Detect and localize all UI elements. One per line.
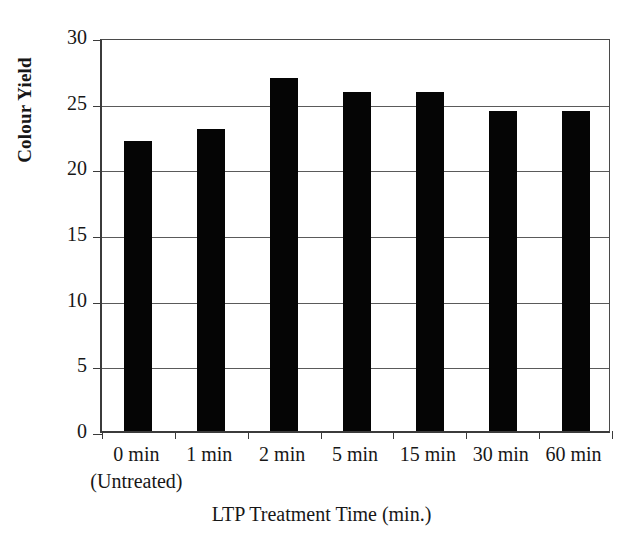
bar (270, 78, 298, 431)
y-axis-tick-label: 0 (42, 420, 87, 443)
bar (124, 141, 152, 431)
x-axis-tick (248, 431, 249, 439)
y-axis-tick (93, 40, 102, 41)
bar (489, 111, 517, 431)
y-axis-tick (93, 171, 102, 172)
x-axis-tick (393, 431, 394, 439)
y-axis-tick (93, 303, 102, 304)
plot-area (100, 39, 610, 433)
x-axis-tick-sublabel: (Untreated) (71, 470, 201, 493)
y-axis-tick (93, 106, 102, 107)
y-axis-tick-label: 5 (42, 354, 87, 377)
y-axis-tick-label: 10 (42, 289, 87, 312)
y-axis-tick-label: 20 (42, 157, 87, 180)
y-axis-tick-label: 25 (42, 92, 87, 115)
chart-figure: Colour Yield 051015202530 0 min(Untreate… (0, 0, 643, 552)
bar (562, 111, 590, 431)
bar (416, 92, 444, 431)
y-axis-title: Colour Yield (14, 10, 44, 210)
y-axis-tick-label: 15 (42, 223, 87, 246)
x-axis-tick (466, 431, 467, 439)
y-axis-tick (93, 434, 102, 435)
y-axis-tick (93, 368, 102, 369)
x-axis-tick (612, 431, 613, 439)
x-axis-tick (539, 431, 540, 439)
x-axis-tick (321, 431, 322, 439)
bar (343, 92, 371, 431)
x-axis-tick-label: 60 min (529, 443, 619, 466)
bar (197, 129, 225, 431)
y-axis-tick-label: 30 (42, 26, 87, 49)
y-axis-tick (93, 237, 102, 238)
x-axis-title: LTP Treatment Time (min.) (0, 503, 643, 526)
x-axis-tick (102, 431, 103, 439)
x-axis-tick (175, 431, 176, 439)
